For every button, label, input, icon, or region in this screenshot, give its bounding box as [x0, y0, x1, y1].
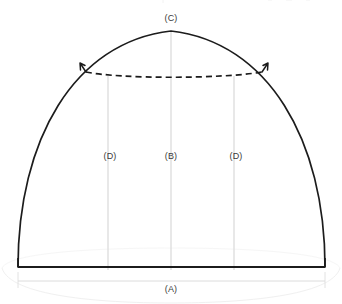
label-height-center: (B) — [165, 152, 178, 161]
label-span-bottom: (A) — [165, 285, 178, 294]
label-rise-top: (C) — [164, 14, 177, 23]
arrowhead-right-icon — [262, 63, 268, 72]
label-height-right: (D) — [229, 152, 242, 161]
label-height-left: (D) — [103, 152, 116, 161]
arch-diagram: (C) (D) (B) (D) (A) — [0, 0, 342, 304]
dashed-chord-arc — [86, 72, 262, 77]
arrowhead-left-icon — [80, 63, 86, 72]
